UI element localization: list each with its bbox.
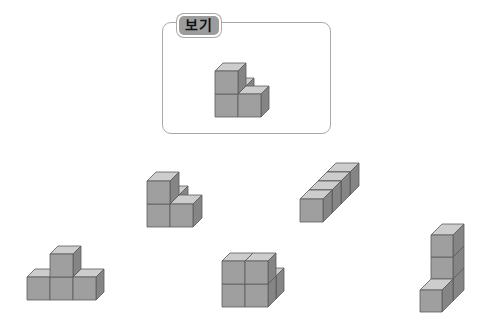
option-shape-d: [222, 253, 284, 307]
cube-front-face: [300, 199, 323, 222]
cube-front-face: [431, 257, 453, 279]
cube-front-face: [431, 235, 453, 257]
cube-figures: [0, 0, 490, 336]
cube-front-face: [420, 290, 442, 312]
cube-front-face: [222, 284, 245, 307]
cube-front-face: [27, 277, 50, 300]
option-shape-b: [300, 163, 359, 222]
cube-front-face: [147, 204, 170, 227]
cube-front-face: [73, 277, 96, 300]
cube-front-face: [215, 71, 238, 94]
cube-front-face: [147, 181, 170, 204]
option-shape-a: [147, 172, 202, 227]
example-shape: [215, 63, 269, 117]
cube-front-face: [215, 94, 238, 117]
cube-front-face: [238, 94, 261, 117]
cube-front-face: [50, 254, 73, 277]
cube-front-face: [245, 261, 268, 284]
cube-front-face: [170, 204, 193, 227]
cube-front-face: [222, 261, 245, 284]
cube-front-face: [50, 277, 73, 300]
option-shape-c: [27, 246, 104, 300]
cube-front-face: [245, 284, 268, 307]
option-shape-e: [420, 224, 464, 312]
